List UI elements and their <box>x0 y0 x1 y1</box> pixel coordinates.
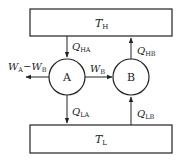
heat-engine-diagram: TH TL A B QHA QHB QLA <box>0 0 178 165</box>
flow-q-ha: QHA <box>67 36 91 57</box>
cold-reservoir-sub: L <box>102 139 107 147</box>
flow-q-hb: QHB <box>131 38 156 59</box>
svg-text:TL: TL <box>95 133 107 147</box>
svg-text:QHA: QHA <box>72 41 91 54</box>
svg-text:TH: TH <box>95 17 108 31</box>
hot-reservoir: TH <box>30 9 172 36</box>
engine-b: B <box>113 59 149 95</box>
svg-text:QLA: QLA <box>72 106 90 119</box>
flow-q-la: QLA <box>67 95 90 123</box>
flow-w-b: WB <box>85 63 112 77</box>
cold-reservoir: TL <box>30 125 172 153</box>
svg-text:QLB: QLB <box>137 108 155 121</box>
svg-text:WA−WB: WA−WB <box>8 61 47 74</box>
hot-reservoir-sub: H <box>102 23 108 31</box>
engine-b-label: B <box>127 71 135 84</box>
flow-w-net: WA−WB <box>8 61 49 77</box>
svg-text:WB: WB <box>90 63 105 76</box>
engine-a-label: A <box>62 71 72 84</box>
engine-a: A <box>49 59 85 95</box>
flow-q-lb: QLB <box>131 97 155 125</box>
svg-text:QHB: QHB <box>137 45 156 58</box>
